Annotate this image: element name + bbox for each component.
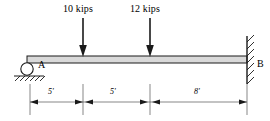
roller-circle — [21, 63, 33, 75]
beam-body — [27, 56, 247, 63]
dimension-line-2 — [83, 100, 150, 105]
dim3-arrow-right — [239, 100, 247, 105]
dimension-line-3 — [150, 100, 247, 105]
dim1-arrow-right — [75, 100, 83, 105]
dim2-arrow-right — [140, 100, 148, 105]
dimension-label-2: 5' — [110, 87, 116, 96]
support-label-a: A — [38, 59, 45, 70]
beam-diagram: 10 kips 12 kips A B 5' 5' 8' — [0, 0, 270, 121]
wall-hatch-icon — [247, 35, 254, 84]
load-arrow-1 — [79, 18, 87, 57]
load-label-1: 10 kips — [63, 3, 93, 14]
load-label-2: 12 kips — [130, 3, 160, 14]
dimension-label-1: 5' — [48, 87, 54, 96]
load-arrow-2 — [146, 18, 154, 57]
load-arrow-2-head — [146, 45, 154, 57]
load-arrow-1-head — [79, 45, 87, 57]
dim2-arrow-left — [85, 100, 93, 105]
dimension-extension-lines — [30, 84, 247, 115]
dimension-label-3: 8' — [194, 87, 200, 96]
support-label-b: B — [257, 58, 264, 69]
ground-hatch-icon — [15, 76, 45, 81]
beam-member — [27, 56, 247, 63]
dim1-arrow-left — [30, 100, 38, 105]
fixed-support-b — [247, 35, 254, 84]
dim3-arrow-left — [152, 100, 160, 105]
dimension-line-1 — [30, 100, 83, 105]
